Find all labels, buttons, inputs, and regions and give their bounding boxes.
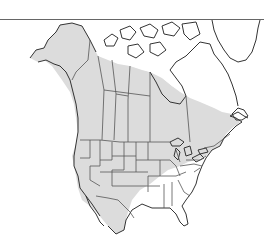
north-america-map [0,0,264,252]
range-map: North America [0,0,264,252]
southeast-us-excluded [150,172,198,226]
